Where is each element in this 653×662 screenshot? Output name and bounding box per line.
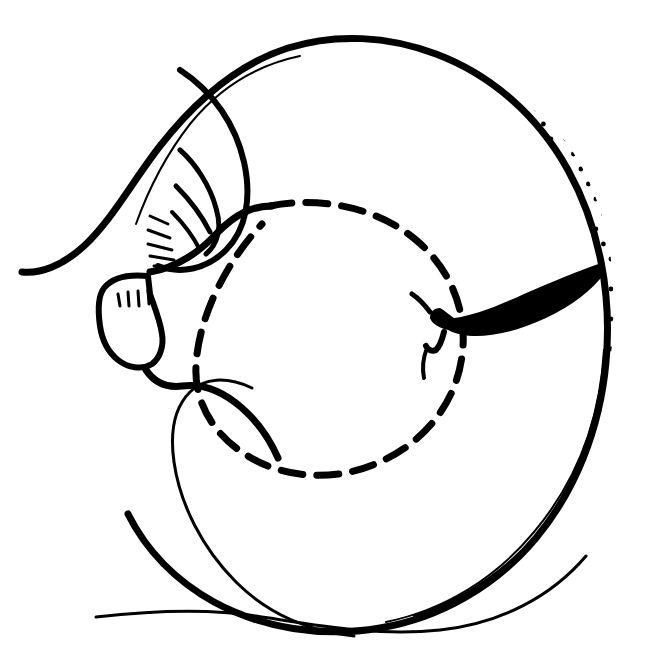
- figure-root: [0, 0, 653, 662]
- shell-illustration-svg: [0, 0, 653, 662]
